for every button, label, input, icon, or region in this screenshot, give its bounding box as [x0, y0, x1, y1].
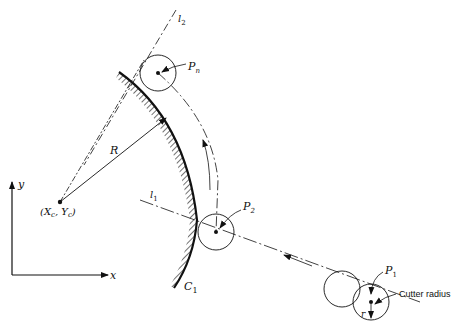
cutter-pn: Pn: [140, 55, 200, 91]
center-label: (Xc, Yc): [40, 206, 76, 219]
radius-label: R: [109, 144, 118, 157]
cutter-path-diagram: y x C1 R (Xc, Yc) l2 l1 Pn: [0, 0, 460, 329]
pn-label: Pn: [187, 60, 200, 75]
part-surface-c1: C1: [116, 72, 198, 295]
radius-lines: R (Xc, Yc): [40, 60, 166, 219]
center-point: [58, 200, 62, 204]
cutter-radius-label: Cutter radius: [399, 289, 451, 299]
cutter-p1: P1 r Cutter radius: [353, 264, 451, 320]
arc-direction-arrow: [203, 140, 210, 190]
p1-label: P1: [384, 264, 397, 279]
l1-label: l1: [150, 189, 158, 203]
cutter-intermediate: [324, 271, 360, 307]
p2-label: P2: [242, 200, 255, 215]
coordinate-axes: y x: [12, 178, 117, 282]
r-label: r: [361, 309, 366, 319]
cutter-p2: P2: [198, 200, 255, 250]
axis-y-label: y: [17, 178, 25, 191]
l1-direction-arrow: [284, 255, 312, 266]
c1-label: C1: [184, 280, 198, 295]
cutter-arc-path: [158, 73, 218, 232]
axis-x-label: x: [110, 269, 117, 282]
l2-label: l2: [178, 13, 186, 27]
